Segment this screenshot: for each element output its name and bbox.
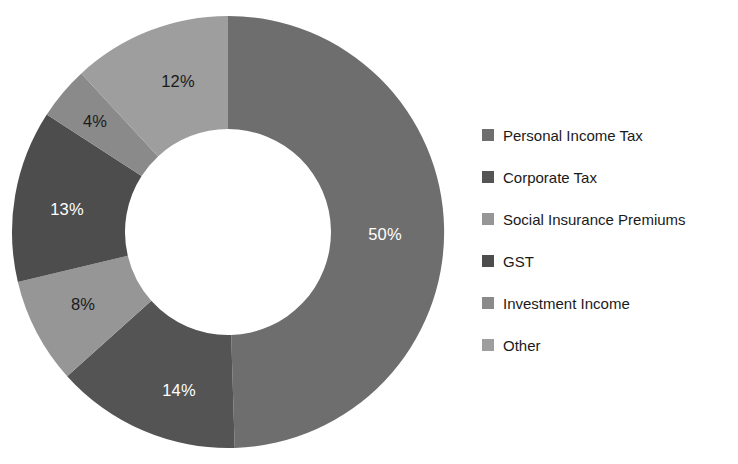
legend-item-label: Other (503, 338, 541, 353)
donut-chart-figure: 50%14%8%13%4%12% Personal Income TaxCorp… (0, 0, 738, 464)
donut-svg: 50%14%8%13%4%12% (0, 0, 460, 464)
donut-slices-group (12, 16, 444, 448)
legend-item[interactable]: GST (482, 240, 734, 282)
legend-item-label: Personal Income Tax (503, 128, 643, 143)
legend-swatch-icon (482, 213, 494, 225)
legend-item-label: Corporate Tax (503, 170, 597, 185)
legend-item[interactable]: Personal Income Tax (482, 114, 734, 156)
legend-item[interactable]: Investment Income (482, 282, 734, 324)
legend-swatch-icon (482, 255, 494, 267)
legend-item[interactable]: Corporate Tax (482, 156, 734, 198)
legend-item[interactable]: Other (482, 324, 734, 366)
donut-slice[interactable] (228, 16, 444, 448)
legend-item-label: Social Insurance Premiums (503, 212, 686, 227)
legend-item[interactable]: Social Insurance Premiums (482, 198, 734, 240)
chart-legend: Personal Income TaxCorporate TaxSocial I… (482, 114, 734, 366)
legend-item-label: GST (503, 254, 534, 269)
legend-swatch-icon (482, 297, 494, 309)
legend-swatch-icon (482, 339, 494, 351)
legend-item-label: Investment Income (503, 296, 630, 311)
donut-plot-area: 50%14%8%13%4%12% (0, 0, 460, 464)
legend-swatch-icon (482, 171, 494, 183)
legend-swatch-icon (482, 129, 494, 141)
